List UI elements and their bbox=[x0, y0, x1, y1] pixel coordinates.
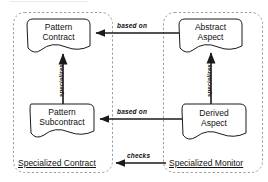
group-label-specialized-monitor: Specialized Monitor bbox=[169, 158, 243, 168]
node-abstract-aspect[interactable] bbox=[179, 19, 242, 52]
edge-label-specializes-right: specializes bbox=[206, 64, 212, 97]
diagram-canvas: Pattern Contract Pattern Subcontract Abs… bbox=[0, 0, 268, 182]
node-derived-aspect[interactable] bbox=[182, 104, 246, 139]
node-pattern-subcontract[interactable] bbox=[30, 104, 94, 137]
edge-label-based-on-bottom: based on bbox=[117, 108, 147, 115]
edge-label-checks: checks bbox=[127, 152, 150, 159]
group-label-specialized-contract: Specialized Contract bbox=[18, 158, 96, 168]
edge-label-specializes-left: specializes bbox=[58, 64, 64, 97]
edge-label-based-on-top: based on bbox=[117, 22, 147, 29]
node-pattern-contract[interactable] bbox=[27, 19, 90, 52]
